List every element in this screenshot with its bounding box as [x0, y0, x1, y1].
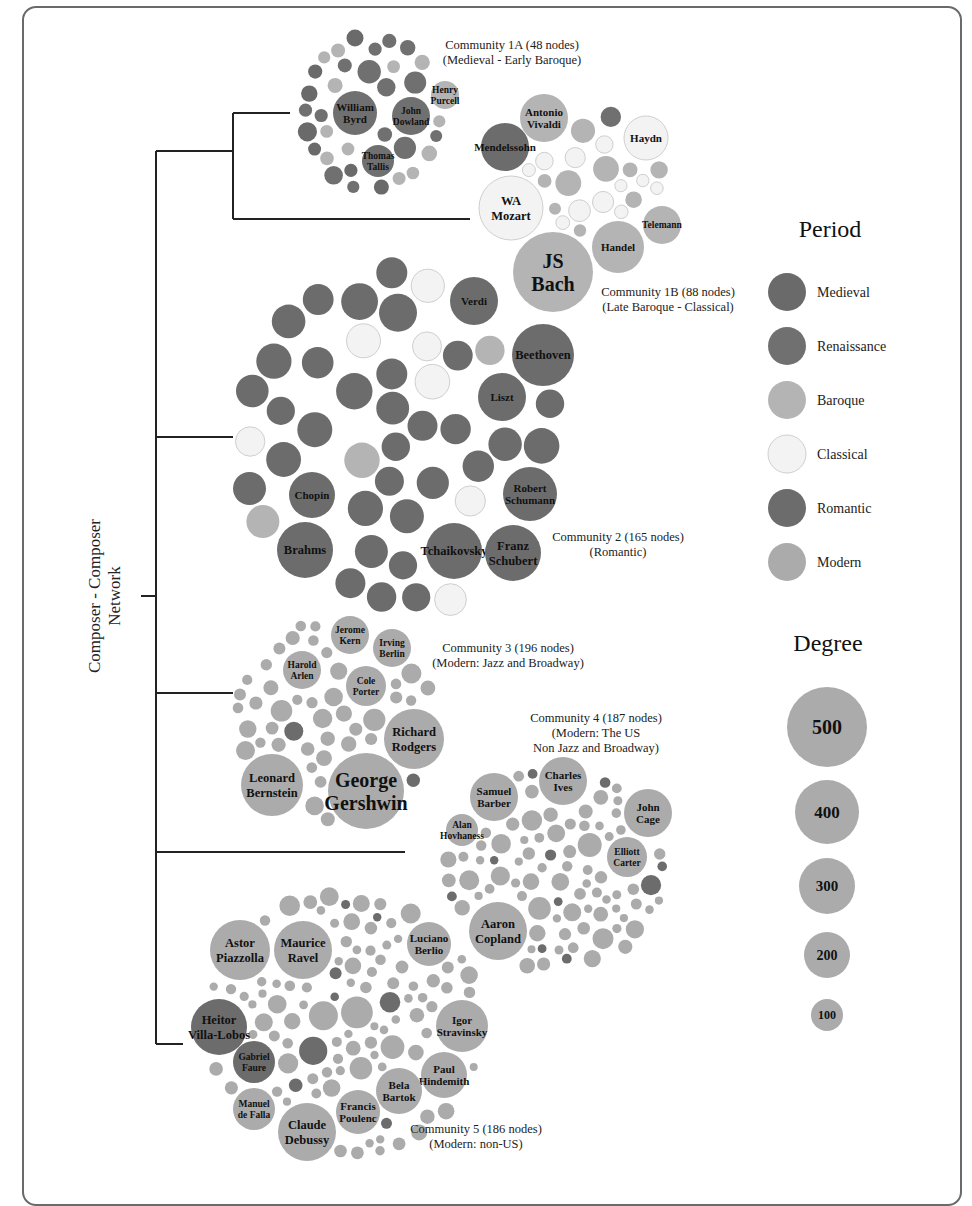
node-bubble [307, 1073, 318, 1084]
node-bubble [490, 856, 498, 864]
node-bubble [396, 961, 409, 974]
composer-label: John [636, 801, 659, 813]
node-bubble [387, 60, 400, 73]
node-bubble [321, 812, 335, 826]
node-bubble [612, 784, 622, 794]
node-bubble [579, 821, 590, 832]
composer-label: Arlen [290, 671, 314, 681]
node-bubble [255, 1013, 273, 1031]
node-bubble [390, 499, 424, 533]
node-bubble [347, 181, 359, 193]
composer-node-thomas-tallis: ThomasTallis [362, 145, 395, 177]
node-bubble [404, 72, 426, 94]
composer-node-handel: Handel [592, 221, 644, 273]
node-bubble [323, 1079, 341, 1097]
node-bubble [342, 143, 355, 156]
node-bubble [349, 723, 362, 736]
composer-label: Faure [242, 1063, 266, 1073]
node-bubble [418, 993, 428, 1003]
node-bubble [476, 840, 486, 850]
node-bubble [334, 1145, 347, 1158]
composer-label: Paul [433, 1063, 454, 1075]
node-bubble [320, 887, 339, 906]
composer-label: Ives [554, 781, 574, 793]
node-bubble [390, 691, 402, 703]
composer-label: Berlin [379, 649, 405, 659]
node-bubble [417, 467, 449, 499]
node-bubble [600, 777, 611, 788]
node-bubble [601, 107, 621, 127]
composer-node-claude-debussy: ClaudeDebussy [278, 1103, 336, 1161]
composer-node-george-gershwin: GeorgeGershwin [324, 753, 407, 829]
node-bubble [430, 130, 442, 142]
node-bubble [348, 491, 383, 526]
node-bubble [345, 958, 362, 975]
legend-swatch-romantic [768, 489, 806, 527]
composer-label: Poulenc [339, 1112, 376, 1124]
composer-node-elliott-carter: ElliottCarter [607, 837, 647, 877]
composer-node-bela-bartok: BelaBartok [376, 1068, 422, 1114]
composer-label: Antonio [525, 106, 563, 118]
node-bubble [612, 905, 620, 913]
node-bubble [263, 680, 278, 695]
node-bubble [549, 203, 561, 215]
node-bubble [529, 925, 545, 941]
node-bubble [365, 1036, 377, 1048]
composer-label: Luciano [410, 932, 449, 944]
node-bubble [407, 167, 420, 180]
node-bubble [302, 347, 334, 379]
node-bubble [623, 162, 638, 177]
composer-label: George [335, 769, 397, 792]
node-bubble [376, 358, 407, 389]
node-bubble [476, 856, 484, 864]
node-bubble [353, 895, 370, 912]
node-bubble [654, 848, 665, 859]
composer-label: Piazzolla [216, 951, 265, 965]
node-bubble [282, 1038, 293, 1049]
legend-item-modern: Modern [768, 543, 861, 581]
node-bubble [410, 1008, 425, 1023]
node-bubble [382, 433, 410, 461]
node-bubble [555, 946, 564, 955]
composer-node-haydn: Haydn [624, 116, 668, 160]
legend-swatch-baroque [768, 381, 806, 419]
node-bubble [279, 896, 300, 917]
node-bubble [260, 915, 270, 925]
node-bubble [379, 294, 417, 332]
node-bubble [563, 845, 576, 858]
composer-label: Cage [636, 813, 660, 825]
node-bubble [341, 936, 352, 947]
composer-label: John [401, 106, 422, 116]
node-bubble [369, 43, 382, 56]
composer-label: Harold [288, 660, 318, 670]
composer-label: Dowland [393, 117, 430, 127]
node-bubble [266, 442, 301, 477]
node-bubble [377, 78, 395, 96]
node-bubble [407, 774, 420, 787]
node-bubble [426, 1001, 437, 1012]
composer-label: Barber [477, 797, 511, 809]
node-bubble [459, 870, 479, 890]
composer-node-john-dowland: JohnDowland [392, 97, 430, 135]
node-bubble [283, 1098, 291, 1106]
composer-label: Charles [545, 769, 582, 781]
node-bubble [488, 428, 521, 461]
legend-swatch-modern [768, 543, 806, 581]
legend-label: Modern [817, 555, 861, 570]
node-bubble [534, 833, 544, 843]
node-bubble [289, 1078, 303, 1092]
node-bubble [307, 762, 318, 773]
composer-label: Telemann [642, 220, 682, 230]
node-bubble [612, 924, 621, 933]
node-bubble [593, 156, 619, 182]
node-bubble [375, 467, 404, 496]
node-bubble [562, 861, 572, 871]
node-bubble [331, 44, 345, 58]
node-bubble [616, 825, 626, 835]
node-bubble [537, 957, 550, 970]
composer-label: Bartok [383, 1091, 417, 1103]
node-bubble [455, 486, 485, 516]
composer-label: Maurice [280, 936, 326, 950]
node-bubble [370, 1051, 378, 1059]
composer-label: WA [501, 194, 521, 208]
